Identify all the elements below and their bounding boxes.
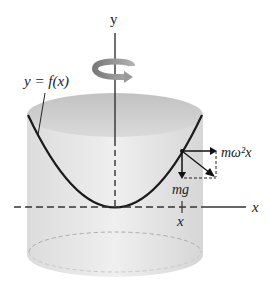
rotating-cylinder-diagram: y x x y = f(x) mω²x mg	[0, 0, 270, 281]
rotation-arrow-icon	[95, 62, 133, 84]
y-axis-label: y	[110, 11, 118, 27]
x-position-label: x	[176, 213, 184, 229]
curve-label: y = f(x)	[22, 73, 69, 90]
resultant-arrowhead	[205, 168, 215, 177]
gravity-force-label: mg	[172, 182, 189, 197]
x-axis-label: x	[251, 199, 259, 215]
centrifugal-force-label: mω²x	[221, 145, 252, 160]
